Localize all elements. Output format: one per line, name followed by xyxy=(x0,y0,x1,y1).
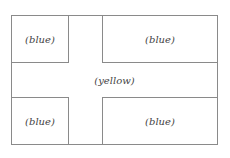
region-label: (blue) xyxy=(25,116,55,127)
region-top-right: (blue) xyxy=(102,15,218,63)
region-bottom-left: (blue) xyxy=(11,97,69,145)
region-label: (blue) xyxy=(145,116,175,127)
region-bottom-right: (blue) xyxy=(102,97,218,145)
region-label: (blue) xyxy=(145,34,175,45)
region-middle: (yellow) xyxy=(11,62,218,98)
region-top-left: (blue) xyxy=(11,15,69,63)
region-label: (yellow) xyxy=(94,75,134,86)
region-label: (blue) xyxy=(25,34,55,45)
